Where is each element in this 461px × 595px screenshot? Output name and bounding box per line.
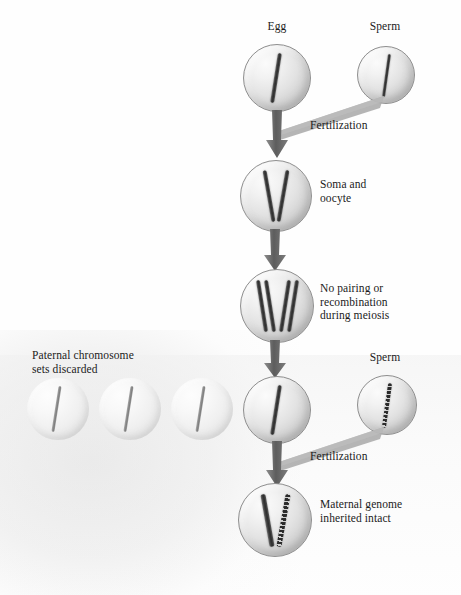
zygote-cell (238, 483, 312, 557)
arrow-meiosis-to-egg (261, 340, 289, 380)
sperm-top-label: Sperm (354, 20, 416, 34)
chromosome-paternal-beaded (276, 494, 290, 547)
chromosome-discarded (51, 386, 62, 432)
egg-label: Egg (246, 20, 308, 34)
maternal-intact-label: Maternal genome inherited intact (320, 498, 402, 525)
discarded-cell-2 (99, 378, 161, 440)
discarded-cell-3 (171, 378, 233, 440)
chromosome-maternal (263, 170, 276, 222)
fertilization-top-label: Fertilization (310, 119, 368, 133)
sperm-cell-bottom (357, 375, 417, 435)
diagram-canvas: Egg Sperm Fertilization (0, 0, 461, 595)
chromosome-discarded (195, 386, 206, 432)
chromosome-maternal (260, 494, 274, 547)
soma-oocyte-label: Soma and oocyte (320, 178, 366, 205)
chromosome-discarded (123, 386, 134, 432)
chromosome-paternal-beaded (382, 383, 392, 428)
discarded-cell-1 (27, 378, 89, 440)
no-pairing-label: No pairing or recombination during meios… (320, 282, 389, 323)
soma-oocyte-cell (240, 160, 312, 232)
arrow-egg-to-zygote (263, 441, 291, 489)
chromosome-paternal (382, 54, 391, 97)
chromosome-paternal (277, 170, 290, 222)
fertilization-bottom-label: Fertilization (310, 450, 368, 464)
paternal-discarded-label: Paternal chromosome sets discarded (32, 349, 134, 376)
sperm-bottom-label: Sperm (354, 351, 416, 365)
arrow-soma-to-meiosis (261, 229, 289, 273)
meiosis-cell (240, 269, 314, 343)
arrow-egg-to-soma (263, 110, 291, 160)
